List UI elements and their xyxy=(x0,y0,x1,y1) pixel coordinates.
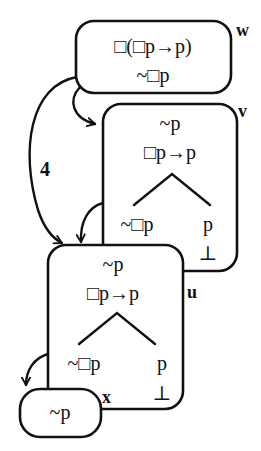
arrow-v-to-u xyxy=(81,203,103,242)
world-u-formula-2: □p→p xyxy=(87,282,139,305)
world-u-branch-left: ~□p xyxy=(68,352,101,375)
world-v-label: v xyxy=(238,101,247,121)
world-w-label: w xyxy=(236,20,249,40)
arrow-w-to-u xyxy=(30,77,77,243)
world-v-branch-right-closed: ⊥ xyxy=(199,242,218,264)
world-w-formula-1: □(□p→p) xyxy=(114,35,191,58)
transitivity-label: 4 xyxy=(40,158,50,180)
world-v-formula-2: □p→p xyxy=(144,141,196,164)
world-w-formula-2: ~□p xyxy=(137,64,170,87)
world-u-branch-right: p xyxy=(157,352,167,375)
world-u-label: u xyxy=(187,282,197,302)
arrow-u-to-x xyxy=(26,354,48,385)
world-v-branch-right: p xyxy=(203,213,213,236)
world-x-label: x xyxy=(102,387,111,407)
world-v-branch-left: ~□p xyxy=(121,213,154,236)
world-x-formula-1: ~p xyxy=(50,401,71,424)
world-u-branch-right-closed: ⊥ xyxy=(153,382,172,404)
world-v-formula-1: ~p xyxy=(160,112,181,135)
modal-tree-diagram: 4 □(□p→p) ~□p w ~p □p→p ~□p p ⊥ v ~p □p→… xyxy=(0,0,261,451)
world-u-formula-1: ~p xyxy=(103,253,124,276)
